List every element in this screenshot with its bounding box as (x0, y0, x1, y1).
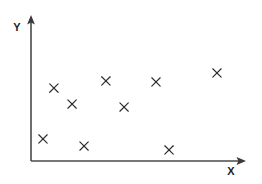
x-axis-label: X (227, 165, 235, 177)
chart-canvas: Y X (0, 0, 262, 184)
chart-background (0, 0, 262, 184)
scatter-plot-figure: Y X (0, 0, 262, 184)
y-axis-label: Y (13, 21, 21, 33)
